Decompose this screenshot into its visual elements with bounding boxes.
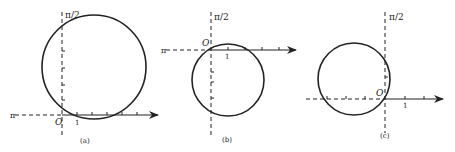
panel-b: π/2 π O 1 (b) bbox=[161, 12, 296, 144]
polar-circles-diagram: π/2 π O 1 (a) π/2 π O 1 (b) bbox=[0, 0, 455, 152]
circle-c bbox=[318, 43, 390, 115]
pi-half-label: π/2 bbox=[214, 12, 229, 22]
caption-c: (c) bbox=[380, 132, 390, 140]
pi-label: π bbox=[10, 111, 15, 120]
pi-half-label: π/2 bbox=[389, 12, 404, 22]
origin-label: O bbox=[202, 38, 210, 48]
origin-label: O bbox=[376, 88, 384, 98]
panel-c: π/2 O 1 (c) bbox=[306, 12, 443, 140]
unit-label: 1 bbox=[75, 119, 79, 127]
caption-b: (b) bbox=[222, 136, 232, 144]
panel-a: π/2 π O 1 (a) bbox=[10, 10, 158, 145]
unit-label: 1 bbox=[225, 53, 229, 61]
pi-label: π bbox=[161, 46, 166, 55]
pi-half-label: π/2 bbox=[65, 10, 80, 20]
caption-a: (a) bbox=[80, 137, 90, 145]
circle-a bbox=[42, 15, 146, 119]
unit-label: 1 bbox=[403, 102, 407, 110]
origin-label: O bbox=[55, 117, 63, 127]
